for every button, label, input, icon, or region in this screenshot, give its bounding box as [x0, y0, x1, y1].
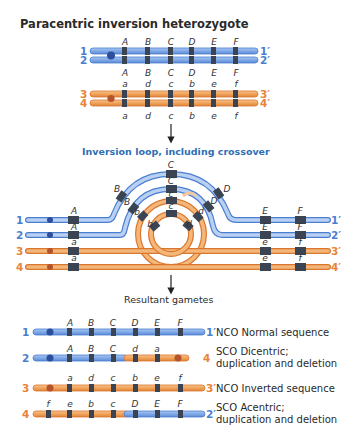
svg-text:a: a	[122, 79, 128, 89]
svg-text:D: D	[224, 184, 231, 194]
p2-label-3-prime: 3′	[331, 245, 341, 257]
panel2-centromeres	[47, 217, 53, 270]
svg-text:B: B	[145, 37, 151, 47]
svg-text:e: e	[211, 111, 217, 121]
svg-text:A: A	[70, 222, 77, 232]
svg-text:d: d	[186, 219, 192, 229]
svg-text:f: f	[178, 373, 183, 383]
svg-text:B: B	[88, 344, 94, 354]
svg-text:C: C	[110, 344, 117, 354]
svg-text:E: E	[154, 318, 160, 328]
svg-text:3: 3	[22, 382, 29, 394]
svg-text:E: E	[211, 68, 217, 78]
svg-text:4: 4	[22, 408, 29, 420]
panel1-chromatid-3	[90, 91, 258, 97]
p2-label-1-prime: 1′	[331, 214, 341, 226]
svg-text:C: C	[168, 160, 175, 170]
svg-text:d: d	[198, 206, 204, 216]
svg-text:e: e	[262, 237, 268, 247]
svg-text:b: b	[132, 373, 138, 383]
svg-text:E: E	[154, 399, 160, 409]
svg-text:A: A	[66, 318, 73, 328]
panel1-chromatid-2	[90, 57, 258, 63]
svg-text:SCO Acentric;: SCO Acentric;	[216, 402, 285, 413]
svg-text:c: c	[169, 111, 174, 121]
label-4: 4	[80, 97, 87, 109]
svg-text:f: f	[234, 79, 239, 89]
svg-text:c: c	[169, 189, 174, 199]
svg-text:3′: 3′	[206, 382, 216, 394]
svg-text:d: d	[145, 111, 151, 121]
panel1-bottom-labels: a d c b e f	[122, 111, 239, 121]
svg-text:f: f	[234, 111, 239, 121]
inversion-diagram: Paracentric inversion heterozygote A B C…	[0, 0, 355, 444]
svg-text:C: C	[168, 37, 175, 47]
svg-text:D: D	[132, 318, 139, 328]
svg-text:F: F	[297, 222, 303, 232]
svg-text:2: 2	[22, 352, 29, 364]
svg-text:B: B	[124, 197, 130, 207]
gamete-3: a d c b e f 3 3′ NCO Inverted sequence	[22, 373, 335, 394]
svg-text:4: 4	[203, 352, 210, 364]
p2-label-4-prime: 4′	[331, 261, 341, 273]
svg-text:c: c	[111, 373, 116, 383]
p2-label-3: 3	[16, 245, 23, 257]
label-4-prime: 4′	[260, 97, 270, 109]
svg-text:E: E	[211, 37, 217, 47]
svg-text:a: a	[71, 237, 77, 247]
gamete-1: A B C D E F 1 1′ NCO Normal sequence	[22, 318, 329, 338]
svg-text:d: d	[145, 79, 151, 89]
svg-text:C: C	[168, 68, 175, 78]
svg-text:A: A	[66, 344, 73, 354]
svg-text:NCO Inverted sequence: NCO Inverted sequence	[216, 383, 335, 394]
panel1-middle-lower-labels: a d c b e f	[122, 79, 239, 89]
svg-text:e: e	[154, 373, 160, 383]
svg-text:B: B	[145, 68, 151, 78]
gamete-4: f e b c D E F 4 2′ SCO Acentric; duplica…	[22, 399, 337, 425]
panel1-middle-upper-labels: A B C D E F	[121, 68, 239, 78]
p2-label-4: 4	[16, 261, 23, 273]
svg-text:b: b	[189, 79, 195, 89]
svg-text:c: c	[169, 201, 174, 211]
svg-text:c: c	[111, 399, 116, 409]
panel3-title: Resultant gametes	[124, 294, 213, 305]
svg-text:duplication and deletion: duplication and deletion	[216, 358, 337, 369]
svg-text:F: F	[233, 68, 239, 78]
svg-text:e: e	[67, 399, 73, 409]
p2-label-2: 2	[16, 229, 23, 241]
svg-text:b: b	[134, 207, 140, 217]
panel1-chromatid-1	[90, 48, 258, 54]
svg-text:f: f	[46, 399, 51, 409]
panel1-top-gene-labels: A B C D E F	[121, 37, 239, 47]
svg-text:F: F	[297, 206, 303, 216]
svg-text:A: A	[121, 37, 128, 47]
svg-text:a: a	[154, 344, 160, 354]
p2-label-1: 1	[16, 214, 23, 226]
svg-text:D: D	[132, 399, 139, 409]
svg-text:F: F	[233, 37, 239, 47]
svg-text:2′: 2′	[206, 408, 216, 420]
svg-text:d: d	[132, 344, 138, 354]
svg-text:SCO Dicentric;: SCO Dicentric;	[216, 346, 289, 357]
svg-text:e: e	[262, 253, 268, 263]
svg-text:B: B	[88, 318, 94, 328]
p2-label-2-prime: 2′	[331, 229, 341, 241]
svg-text:c: c	[169, 79, 174, 89]
svg-text:A: A	[70, 206, 77, 216]
svg-text:E: E	[262, 206, 268, 216]
svg-text:B: B	[114, 184, 120, 194]
svg-text:1: 1	[22, 326, 29, 338]
centromere-icon	[107, 52, 115, 60]
svg-text:NCO Normal sequence: NCO Normal sequence	[216, 327, 329, 338]
svg-text:F: F	[177, 318, 183, 328]
svg-text:C: C	[168, 176, 175, 186]
svg-text:1′: 1′	[206, 326, 216, 338]
svg-text:duplication and deletion: duplication and deletion	[216, 414, 337, 425]
svg-text:a: a	[122, 111, 128, 121]
svg-text:E: E	[262, 222, 268, 232]
label-2: 2	[80, 54, 87, 66]
svg-text:a: a	[67, 373, 73, 383]
panel1-chromatid-4	[90, 100, 258, 106]
svg-text:C: C	[110, 318, 117, 328]
panel1-title: Paracentric inversion heterozygote	[20, 17, 249, 31]
